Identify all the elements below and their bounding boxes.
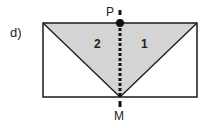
point-m-label: M (114, 109, 124, 123)
region-label-2: 2 (94, 37, 101, 51)
diagram: d) 2 1 P M (0, 0, 206, 128)
geometry-figure (0, 0, 206, 128)
point-p-dot (116, 19, 124, 27)
region-label-1: 1 (141, 37, 148, 51)
part-label: d) (10, 25, 22, 40)
point-p-label: P (106, 5, 114, 19)
